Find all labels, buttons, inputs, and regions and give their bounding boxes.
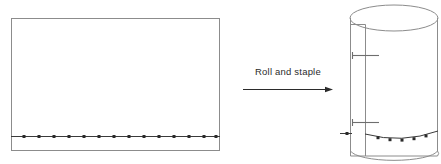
pin-dot: [68, 135, 71, 138]
pin-dot: [389, 138, 392, 141]
figure-canvas: Roll and staple: [0, 0, 441, 164]
pin-dot: [413, 137, 416, 140]
pin-dot: [188, 135, 191, 138]
pin-dot: [98, 135, 101, 138]
transform-annotation: Roll and staple: [243, 66, 333, 92]
pin-dot: [401, 139, 404, 142]
cylinder-top-ellipse: [350, 5, 438, 31]
pin-dot: [23, 135, 26, 138]
seam-flap-edge: [351, 25, 366, 157]
rolled-cylinder-group: [340, 5, 439, 160]
pin-dot: [143, 135, 146, 138]
pin-dot: [203, 135, 206, 138]
pin-dot: [128, 135, 131, 138]
roll-and-staple-diagram: Roll and staple: [0, 0, 441, 164]
pin-dot: [425, 134, 428, 137]
process-arrow-head: [325, 87, 333, 92]
pin-dot: [38, 135, 41, 138]
pin-dot: [346, 132, 349, 135]
flat-sheet-outline: [12, 19, 220, 151]
pin-dot: [53, 135, 56, 138]
pin-dot: [215, 135, 218, 138]
transform-caption: Roll and staple: [255, 66, 321, 77]
pin-dot: [377, 136, 380, 139]
pin-dot: [113, 135, 116, 138]
pin-dot: [83, 135, 86, 138]
pin-dot: [158, 135, 161, 138]
flat-sheet-group: [11, 19, 220, 151]
seam-flap-bottom-return: [366, 151, 439, 156]
pin-dot: [173, 135, 176, 138]
